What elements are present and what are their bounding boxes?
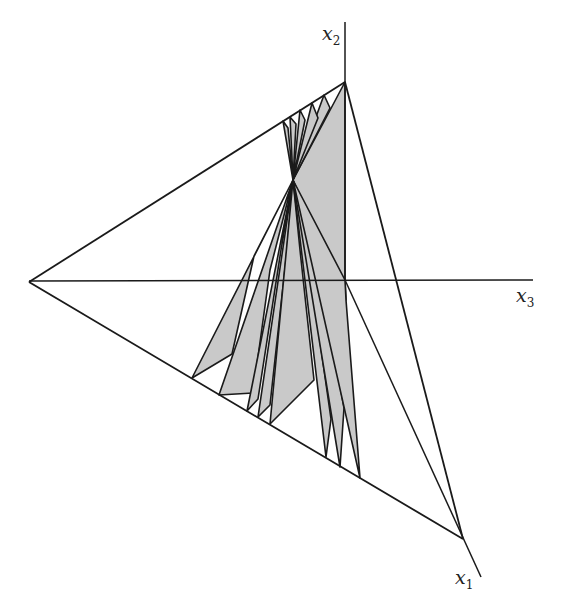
x1-label-var: x — [455, 566, 466, 588]
simplex-diagram — [0, 0, 561, 609]
x3-axis-label: x3 — [516, 286, 534, 309]
axis-x1 — [345, 280, 481, 577]
x1-axis-label: x1 — [455, 568, 473, 591]
x2-label-var: x — [322, 22, 333, 44]
x3-label-var: x — [516, 284, 527, 306]
x1-label-sub: 1 — [466, 578, 474, 592]
x3-label-sub: 3 — [527, 296, 535, 310]
edge-top-bottom — [345, 82, 463, 539]
x2-axis-label: x2 — [322, 24, 340, 47]
x2-label-sub: 2 — [333, 34, 341, 48]
axis-x3 — [29, 280, 533, 281]
simplex-edges — [29, 82, 463, 539]
